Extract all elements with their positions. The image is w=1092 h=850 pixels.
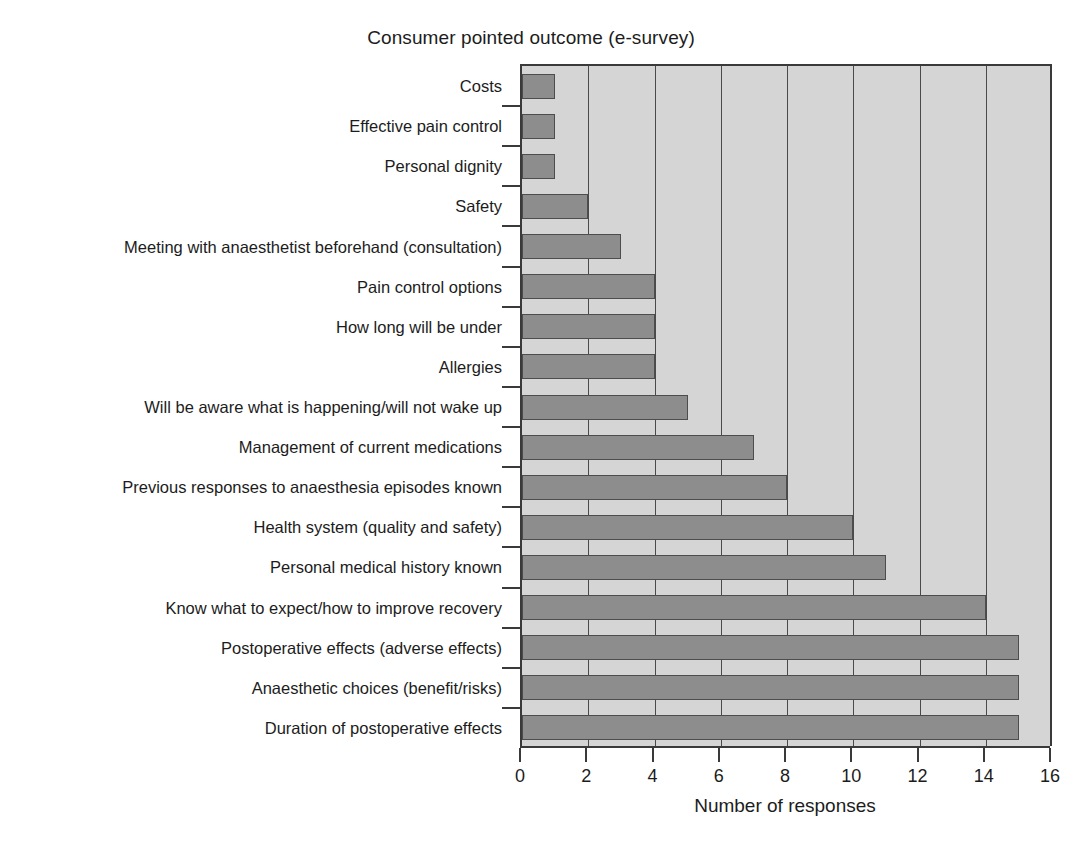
chart-title: Consumer pointed outcome (e-survey) bbox=[0, 27, 1062, 49]
category-label: Safety bbox=[0, 197, 512, 215]
bar bbox=[522, 74, 555, 99]
category-label: Anaesthetic choices (benefit/risks) bbox=[0, 679, 512, 697]
x-tick-8 bbox=[784, 748, 786, 762]
y-tick bbox=[502, 466, 520, 468]
x-tick-14 bbox=[983, 748, 985, 762]
x-tick-16 bbox=[1049, 748, 1051, 762]
bar bbox=[522, 715, 1019, 740]
x-axis-title: Number of responses bbox=[520, 795, 1050, 817]
bar bbox=[522, 435, 754, 460]
plot-inner bbox=[522, 66, 1050, 746]
y-tick bbox=[502, 707, 520, 709]
category-label: Postoperative effects (adverse effects) bbox=[0, 639, 512, 657]
category-label: Pain control options bbox=[0, 278, 512, 296]
x-tick-label: 4 bbox=[633, 766, 673, 787]
bar bbox=[522, 114, 555, 139]
bar bbox=[522, 475, 787, 500]
x-tick-12 bbox=[917, 748, 919, 762]
y-tick bbox=[502, 587, 520, 589]
category-label: How long will be under bbox=[0, 318, 512, 336]
y-tick bbox=[502, 145, 520, 147]
y-tick bbox=[502, 386, 520, 388]
y-tick bbox=[502, 306, 520, 308]
y-tick bbox=[502, 667, 520, 669]
bar bbox=[522, 395, 688, 420]
x-tick-label: 2 bbox=[566, 766, 606, 787]
category-label: Allergies bbox=[0, 358, 512, 376]
category-label: Will be aware what is happening/will not… bbox=[0, 398, 512, 416]
x-tick-2 bbox=[585, 748, 587, 762]
bar bbox=[522, 675, 1019, 700]
x-tick-4 bbox=[652, 748, 654, 762]
bar bbox=[522, 555, 886, 580]
x-tick-10 bbox=[850, 748, 852, 762]
x-tick-6 bbox=[718, 748, 720, 762]
category-label: Health system (quality and safety) bbox=[0, 518, 512, 536]
x-tick-label: 14 bbox=[964, 766, 1004, 787]
gridline-16 bbox=[1050, 66, 1052, 746]
bar bbox=[522, 314, 655, 339]
y-tick bbox=[502, 185, 520, 187]
category-label: Previous responses to anaesthesia episod… bbox=[0, 478, 512, 496]
plot-area bbox=[520, 66, 1050, 748]
y-tick bbox=[502, 627, 520, 629]
x-tick-label: 10 bbox=[831, 766, 871, 787]
bar bbox=[522, 595, 986, 620]
bar-chart-figure: Consumer pointed outcome (e-survey) Cost… bbox=[0, 0, 1092, 850]
y-tick bbox=[502, 105, 520, 107]
category-axis-labels: CostsEffective pain controlPersonal dign… bbox=[0, 66, 512, 748]
category-label: Personal medical history known bbox=[0, 558, 512, 576]
bar bbox=[522, 194, 588, 219]
x-tick-label: 16 bbox=[1030, 766, 1070, 787]
bar bbox=[522, 354, 655, 379]
y-tick bbox=[502, 506, 520, 508]
bar bbox=[522, 154, 555, 179]
y-tick bbox=[502, 426, 520, 428]
category-label: Costs bbox=[0, 77, 512, 95]
x-tick-0 bbox=[519, 748, 521, 762]
x-tick-label: 0 bbox=[500, 766, 540, 787]
bar bbox=[522, 515, 853, 540]
bar bbox=[522, 274, 655, 299]
y-tick bbox=[502, 546, 520, 548]
x-tick-label: 12 bbox=[898, 766, 938, 787]
bar bbox=[522, 635, 1019, 660]
y-tick bbox=[502, 225, 520, 227]
category-label: Meeting with anaesthetist beforehand (co… bbox=[0, 238, 512, 256]
category-label: Know what to expect/how to improve recov… bbox=[0, 599, 512, 617]
category-label: Management of current medications bbox=[0, 438, 512, 456]
x-tick-label: 6 bbox=[699, 766, 739, 787]
bar bbox=[522, 234, 621, 259]
category-label: Effective pain control bbox=[0, 117, 512, 135]
y-tick bbox=[502, 266, 520, 268]
category-label: Personal dignity bbox=[0, 157, 512, 175]
y-tick bbox=[502, 346, 520, 348]
x-tick-label: 8 bbox=[765, 766, 805, 787]
category-label: Duration of postoperative effects bbox=[0, 719, 512, 737]
